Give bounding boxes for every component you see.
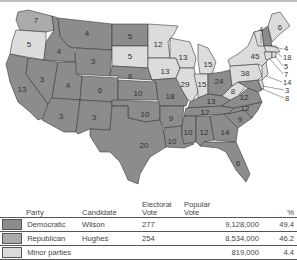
label-nc: 12	[241, 104, 250, 113]
label-mt: 4	[85, 29, 90, 38]
state-fl	[200, 142, 250, 182]
label-ut: 4	[66, 81, 71, 90]
label-fl: 6	[236, 159, 241, 168]
header-percent: %	[259, 199, 297, 218]
legend-row-democratic: Democratic Wilson 277 9,128,000 49.4	[0, 218, 297, 232]
label-tn: 12	[201, 108, 210, 117]
electoral-cell	[142, 246, 184, 260]
header-popular-vote: PopularVote	[184, 199, 259, 218]
label-sd: 5	[128, 52, 133, 61]
label-co: 6	[98, 86, 103, 95]
popular-cell: 819,000	[184, 246, 259, 260]
label-la: 10	[168, 137, 177, 146]
percent-cell: 4.4	[259, 246, 297, 260]
party-cell: Republican	[0, 232, 82, 246]
header-party: Party	[0, 199, 82, 218]
popular-cell: 9,128,000	[184, 218, 259, 232]
label-az: 3	[59, 112, 64, 121]
label-mi: 15	[204, 60, 213, 69]
label-ok: 10	[141, 110, 150, 119]
candidate-cell	[82, 246, 142, 260]
state-mi	[198, 44, 216, 74]
label-md: 8	[285, 94, 289, 103]
label-wy: 3	[91, 57, 96, 66]
label-ga: 14	[221, 128, 230, 137]
label-il: 29	[181, 80, 190, 89]
label-ne: 8	[128, 72, 133, 81]
republican-swatch	[2, 233, 22, 244]
electoral-cell: 277	[142, 218, 184, 232]
label-ca: 13	[18, 85, 27, 94]
legend-row-republican: Republican Hughes 254 8,534,000 46.2	[0, 232, 297, 246]
label-tx: 20	[140, 141, 149, 150]
democratic-swatch	[2, 219, 22, 230]
party-cell: Minor parties	[0, 246, 82, 260]
label-mn: 12	[154, 40, 163, 49]
state-ri	[272, 52, 276, 58]
label-oh: 24	[215, 77, 224, 86]
label-vt: 4	[259, 25, 263, 34]
label-va: 12	[240, 93, 249, 102]
label-pa: 38	[241, 69, 250, 78]
electoral-cell: 254	[142, 232, 184, 246]
popular-cell: 8,534,000	[184, 232, 259, 246]
label-ks: 10	[134, 89, 143, 98]
label-ny: 45	[251, 52, 260, 61]
label-or: 5	[27, 40, 32, 49]
label-ms: 10	[184, 128, 193, 137]
label-ma: 18	[283, 53, 291, 62]
percent-cell: 49.4	[259, 218, 297, 232]
candidate-cell: Hughes	[82, 232, 142, 246]
label-nv: 3	[40, 75, 45, 84]
label-wv: 8	[231, 87, 236, 96]
label-id: 4	[57, 47, 62, 56]
label-wa: 7	[34, 16, 39, 25]
label-ky: 13	[207, 97, 216, 106]
label-me: 6	[278, 23, 283, 32]
percent-cell: 46.2	[259, 232, 297, 246]
label-nh: 4	[284, 44, 288, 53]
label-wi: 13	[179, 53, 188, 62]
state-ma	[264, 46, 280, 52]
label-sc: 9	[238, 115, 243, 124]
state-nj	[262, 62, 268, 80]
candidate-cell: Wilson	[82, 218, 142, 232]
header-candidate: Candidate	[82, 199, 142, 218]
label-ar: 9	[169, 114, 174, 123]
label-in: 15	[198, 80, 207, 89]
label-ia: 13	[161, 67, 170, 76]
label-al: 12	[200, 128, 209, 137]
legend-header-row: Party Candidate ElectoralVote PopularVot…	[0, 199, 297, 218]
label-nd: 5	[128, 32, 133, 41]
results-legend-table: Party Candidate ElectoralVote PopularVot…	[0, 199, 297, 260]
legend-row-minor: Minor parties 819,000 4.4	[0, 246, 297, 260]
label-mo: 18	[166, 92, 175, 101]
label-nm: 3	[92, 113, 97, 122]
party-cell: Democratic	[0, 218, 82, 232]
header-electoral-vote: ElectoralVote	[142, 199, 184, 218]
us-electoral-map: 7 5 13 4 3 4 3 4 3 6 3 5 5 8 10 20 10 12…	[0, 2, 297, 197]
minor-swatch	[2, 247, 22, 258]
